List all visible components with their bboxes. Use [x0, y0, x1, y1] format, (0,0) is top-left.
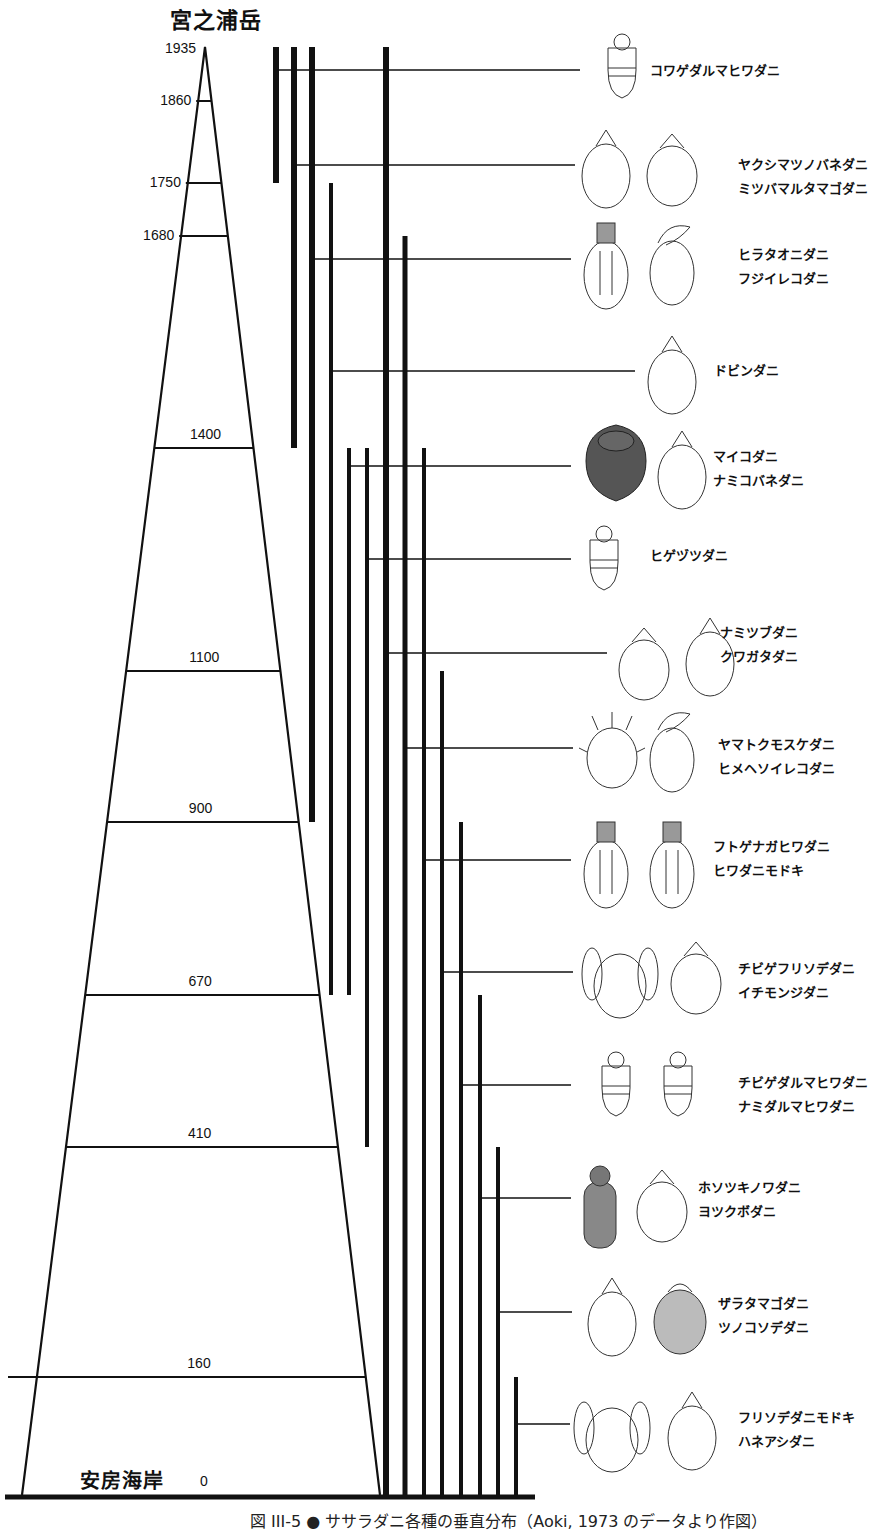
mite-illustration-icon	[650, 822, 694, 908]
species-name: イチモンジダニ	[738, 982, 829, 1004]
species-name: ヨツクボダニ	[698, 1201, 776, 1223]
species-name: ツノコソデダニ	[718, 1317, 809, 1339]
species-name: ヒワダニモドキ	[713, 860, 804, 882]
mite-illustration-icon	[658, 431, 706, 509]
mite-illustration-icon	[664, 1052, 692, 1116]
species-name: ホソツキノワダニ	[698, 1177, 801, 1199]
species-name: フジイレコダニ	[738, 268, 829, 290]
altitude-label: 1400	[190, 426, 221, 442]
mite-illustration-icon	[584, 1166, 616, 1248]
altitude-label: 1935	[165, 40, 196, 56]
mite-illustration-icon	[668, 1392, 716, 1470]
mountain-outline	[22, 47, 380, 1495]
mite-illustration-icon	[588, 1278, 636, 1356]
species-name: ナミダルマヒワダニ	[738, 1096, 855, 1118]
mite-illustration-icon	[650, 226, 694, 305]
species-name: ドビンダニ	[714, 360, 779, 382]
mite-illustration-icon	[671, 942, 721, 1014]
species-name: ヒゲヅツダニ	[650, 545, 728, 567]
mite-illustration-icon	[608, 34, 636, 98]
species-name: クワガタダニ	[720, 646, 798, 668]
altitude-label: 1100	[189, 649, 219, 665]
species-name: ヒメヘソイレコダニ	[718, 758, 835, 780]
mite-illustration-icon	[648, 336, 696, 414]
species-name: マイコダニ	[713, 446, 778, 468]
mite-illustration-icon	[582, 948, 658, 1018]
mite-illustration-icon	[602, 1052, 630, 1116]
mite-illustration-icon	[582, 130, 630, 208]
species-name: フトゲナガヒワダニ	[713, 836, 830, 858]
species-name: ザラタマゴダニ	[718, 1293, 809, 1315]
base-label: 安房海岸	[80, 1465, 164, 1494]
altitude-label: 1750	[150, 174, 181, 190]
altitude-label: 1860	[160, 92, 191, 108]
species-name: ミツバマルタマゴダニ	[738, 178, 868, 200]
mite-illustration-icon	[650, 713, 694, 792]
species-name: フリソデダニモドキ	[738, 1407, 855, 1429]
altitude-label: 160	[187, 1355, 210, 1371]
mite-illustration-icon	[637, 1170, 687, 1242]
mite-illustration-icon	[584, 822, 628, 908]
altitude-label: 900	[189, 800, 212, 816]
species-name: ヒラタオニダニ	[738, 244, 829, 266]
species-name: ハネアシダニ	[738, 1431, 815, 1453]
mite-illustration-icon	[619, 628, 669, 700]
mite-illustration-icon	[654, 1284, 706, 1354]
species-name: ヤマトクモスケダニ	[718, 734, 835, 756]
figure-caption: 図 III-5 ● ササラダニ各種の垂直分布（Aoki, 1973 のデータより…	[250, 1508, 767, 1532]
species-name: コワゲダルマヒワダニ	[650, 60, 780, 82]
altitude-label: 670	[188, 973, 211, 989]
altitude-label: 410	[188, 1125, 211, 1141]
altitude-label: 1680	[143, 227, 174, 243]
species-name: ヤクシマツノバネダニ	[738, 154, 868, 176]
species-name: チビゲダルマヒワダニ	[738, 1072, 868, 1094]
species-name: ナミコバネダニ	[713, 470, 804, 492]
mite-illustration-icon	[584, 223, 628, 309]
mite-illustration-icon	[574, 1402, 650, 1472]
mite-illustration-icon	[590, 526, 618, 590]
species-name: チビゲフリソデダニ	[738, 958, 855, 980]
mite-illustration-icon	[579, 712, 645, 788]
species-name: ナミツブダニ	[720, 622, 798, 644]
mite-illustration-icon	[586, 425, 646, 501]
mite-illustration-icon	[647, 134, 697, 206]
altitude-label: 0	[200, 1473, 208, 1489]
